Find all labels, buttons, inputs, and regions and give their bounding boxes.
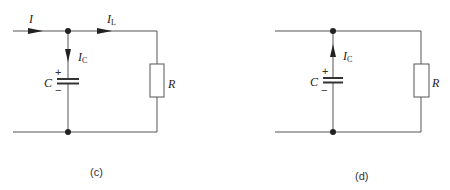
resistor: [150, 64, 164, 97]
label-minus: −: [55, 84, 61, 96]
label-current-load: IL: [106, 12, 116, 27]
label-resistor: R: [167, 77, 176, 91]
node-top: [330, 28, 336, 34]
label-plus: +: [322, 65, 328, 77]
arrow-right-icon: [97, 28, 112, 34]
arrow-up-icon: [330, 44, 336, 57]
arrow-down-icon: [65, 49, 71, 62]
arrow-right-icon: [28, 28, 43, 34]
label-current-in: I: [28, 12, 34, 26]
circuit-diagrams: I IL IC C + − R (c) IC C + − R (d): [0, 0, 450, 190]
label-current-cap: IC: [342, 49, 352, 64]
node-bottom: [65, 129, 71, 135]
caption-d: (d): [355, 170, 368, 182]
label-plus: +: [55, 66, 61, 78]
circuit-d: IC C + − R (d): [275, 28, 440, 182]
label-current-cap: IC: [77, 50, 87, 65]
label-resistor: R: [431, 76, 440, 90]
node-bottom: [330, 129, 336, 135]
label-minus: −: [321, 84, 327, 96]
caption-c: (c): [90, 166, 103, 178]
resistor: [414, 64, 429, 97]
circuit-c: I IL IC C + − R (c): [13, 12, 176, 178]
label-capacitor: C: [44, 76, 53, 90]
label-capacitor: C: [310, 75, 319, 89]
node-top: [65, 28, 71, 34]
